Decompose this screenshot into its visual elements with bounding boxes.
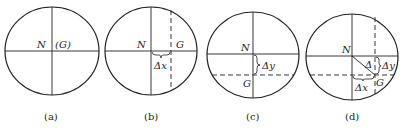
caption-d: (d)	[345, 111, 359, 122]
label-n: N	[341, 44, 352, 55]
panel-c: N G Δy (c)	[207, 12, 299, 122]
figure-canvas: N (G) (a) N G Δx (b) N G Δy (c) N	[0, 0, 403, 128]
label-g: (G)	[55, 39, 71, 50]
brace-dx-icon	[152, 52, 170, 58]
label-delta: Δ	[364, 59, 372, 70]
caption-b: (b)	[144, 111, 158, 122]
caption-c: (c)	[246, 111, 260, 122]
label-delta-x: Δx	[153, 60, 167, 71]
label-g: G	[243, 78, 251, 89]
label-delta-x: Δx	[354, 82, 368, 93]
label-g: G	[376, 77, 384, 88]
panel-a: N (G) (a)	[5, 7, 99, 122]
panel-d: N G Δ Δy Δx (d)	[306, 14, 398, 122]
label-n: N	[136, 39, 147, 50]
brace-dy-icon	[376, 57, 381, 74]
label-delta-y: Δy	[261, 60, 275, 71]
label-n: N	[36, 39, 47, 50]
caption-a: (a)	[44, 111, 58, 122]
brace-dx-icon	[353, 76, 374, 81]
panel-b: N G Δx (b)	[105, 7, 197, 122]
label-g: G	[176, 39, 184, 50]
label-delta-y: Δy	[381, 60, 395, 71]
brace-dy-icon	[254, 55, 260, 74]
label-n: N	[240, 42, 251, 53]
